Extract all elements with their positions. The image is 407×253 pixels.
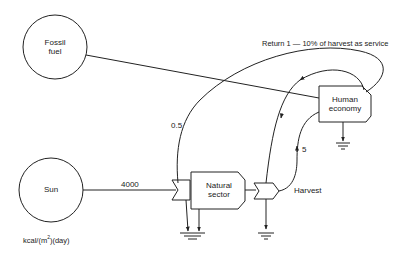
fossil-label-line1: Fossil bbox=[35, 38, 75, 47]
sun-flow-value: 4000 bbox=[121, 180, 139, 189]
return-service-flow bbox=[177, 48, 383, 183]
harvest-to-human-flow bbox=[279, 112, 319, 191]
fossil-label-line2: fuel bbox=[35, 47, 75, 56]
human-label-line2: economy bbox=[322, 104, 368, 113]
natural-drain-1 bbox=[186, 200, 188, 231]
units-suffix: )(day) bbox=[50, 236, 70, 245]
harvest-label: Harvest bbox=[294, 186, 322, 195]
human-to-harvest-flow bbox=[266, 70, 364, 183]
ground-icon-natural bbox=[180, 233, 205, 239]
return-flow-value: 0.5 bbox=[171, 121, 182, 130]
ground-icon-human bbox=[336, 143, 350, 149]
natural-sector-label: Natural sector bbox=[199, 181, 239, 199]
return-service-label: Return 1 — 10% of harvest as service bbox=[262, 39, 388, 48]
fossil-fuel-label: Fossil fuel bbox=[35, 38, 75, 56]
units-label: kcal/(m2)(day) bbox=[23, 233, 70, 245]
units-prefix: kcal/(m bbox=[23, 236, 47, 245]
fossil-fuel-flow bbox=[86, 55, 319, 98]
harvest-flow-value: 5 bbox=[302, 145, 306, 154]
human-economy-label: Human economy bbox=[322, 95, 368, 113]
natural-label-line1: Natural bbox=[199, 181, 239, 190]
sun-label: Sun bbox=[31, 185, 71, 194]
human-label-line1: Human bbox=[322, 95, 368, 104]
natural-label-line2: sector bbox=[199, 190, 239, 199]
ground-icon-harvest bbox=[258, 233, 274, 239]
harvest-interaction bbox=[254, 183, 279, 199]
